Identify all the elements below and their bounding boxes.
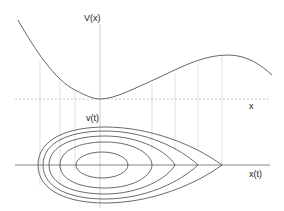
x-axis-label: x [249, 101, 254, 111]
vertical-guide-lines [40, 56, 222, 185]
vt-axis-label: v(t) [86, 113, 99, 123]
xt-axis-label: x(t) [249, 169, 262, 179]
vx-axis-label: V(x) [84, 13, 101, 23]
diagram-canvas [0, 0, 284, 211]
potential-curve [18, 20, 272, 99]
